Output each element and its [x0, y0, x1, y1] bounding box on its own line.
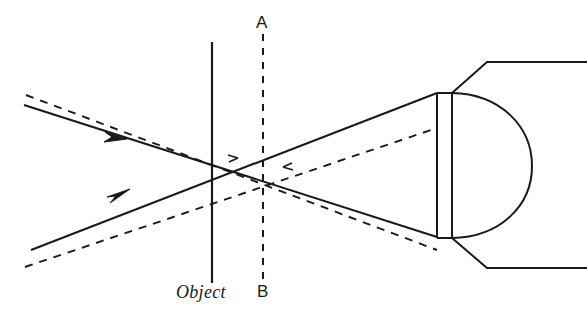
axis-label-a: A: [256, 14, 267, 31]
mount-bracket-bottom: [452, 238, 587, 268]
axis-label-b: B: [257, 283, 268, 300]
solid-ray-upper: [24, 105, 437, 237]
mount-bracket-top: [452, 62, 587, 93]
object-label: Object: [176, 283, 226, 301]
ray-direction-arrow-lower: [107, 189, 130, 203]
dashed-ray-tick-lower: [283, 163, 293, 170]
dashed-ray-tick-upper: [228, 155, 238, 162]
solid-ray-lower: [31, 93, 437, 250]
optical-ray-diagram: [0, 0, 587, 324]
dashed-ray-lower: [25, 128, 437, 267]
eye-dome-arc: [452, 93, 532, 238]
diagram-canvas: Object A B: [0, 0, 587, 324]
